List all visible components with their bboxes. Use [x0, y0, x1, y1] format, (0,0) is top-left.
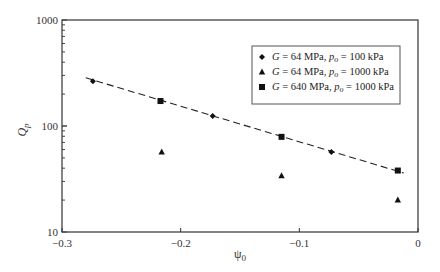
- x-tick-label: −0.1: [289, 237, 309, 249]
- y-tick-label: 10: [47, 226, 59, 238]
- y-tick-label: 1000: [36, 14, 59, 26]
- axis-titles: ψ0 Qp: [15, 123, 247, 263]
- y-axis-title: Qp: [15, 123, 31, 137]
- square-legend-icon: [259, 84, 265, 90]
- diamond-marker: [328, 149, 334, 155]
- legend: G = 64 MPa, po = 100 kPaG = 64 MPa, po =…: [252, 46, 400, 104]
- triangle-marker: [158, 148, 164, 154]
- square-marker: [279, 134, 285, 140]
- x-tick-label: 0: [415, 237, 421, 249]
- x-tick-label: −0.2: [171, 237, 191, 249]
- triangle-marker: [395, 197, 401, 203]
- square-marker: [157, 98, 163, 104]
- y-tick-label: 100: [42, 120, 59, 132]
- x-axis-title: ψ0: [234, 247, 247, 263]
- diamond-marker: [210, 113, 216, 119]
- square-marker: [395, 168, 401, 174]
- triangle-marker: [278, 172, 284, 178]
- chart: −0.3−0.2−0.10101001000 G = 64 MPa, po = …: [0, 0, 440, 272]
- x-tick-label: −0.3: [52, 237, 72, 249]
